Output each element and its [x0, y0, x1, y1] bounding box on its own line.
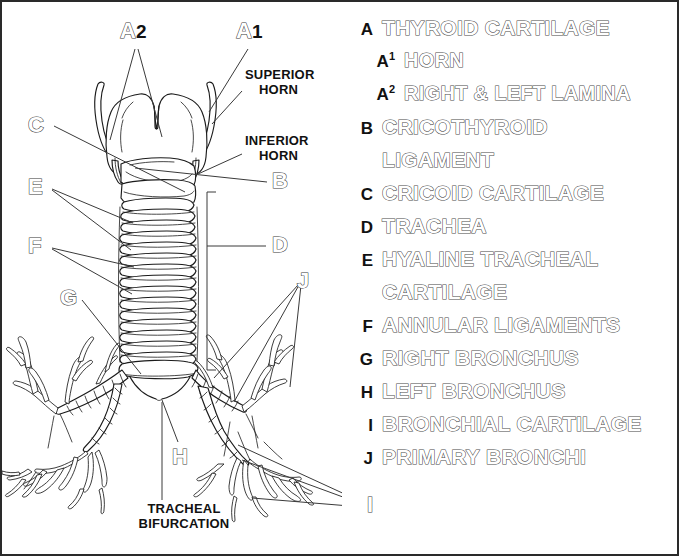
legend-text-F: ANNULAR LIGAMENTS: [373, 313, 620, 337]
legend-row-J: J PRIMARY BRONCHI: [343, 445, 677, 478]
legend-text-B-cont: LIGAMENT: [373, 148, 494, 172]
legend-row-A2: A2 RIGHT & LEFT LAMINA: [343, 82, 677, 115]
legend-text-D: TRACHEA: [373, 214, 487, 238]
legend-key-I: I: [343, 416, 373, 436]
figure-label-G: G: [60, 287, 77, 309]
legend-row-I: I BRONCHIAL CARTILAGE: [343, 412, 677, 445]
legend-row-C: C CRICOID CARTILAGE: [343, 181, 677, 214]
figure-label-J: J: [297, 270, 309, 292]
legend-text-A: THYROID CARTILAGE: [373, 16, 610, 40]
legend-text-J: PRIMARY BRONCHI: [373, 445, 586, 469]
legend-row-B: B CRICOTHYROID: [343, 115, 677, 148]
legend-row-E-cont: CARTILAGE: [343, 280, 677, 313]
legend-key-A: A: [343, 20, 373, 40]
legend-key-B: B: [343, 119, 373, 139]
legend-row-A1: A1 HORN: [343, 49, 677, 82]
figure-label-A2: A2: [120, 20, 146, 42]
legend-row-F: F ANNULAR LIGAMENTS: [343, 313, 677, 346]
legend-text-E: HYALINE TRACHEAL: [373, 247, 598, 271]
figure-label-E: E: [28, 176, 43, 198]
inferior-horn-line2: HORN: [245, 149, 309, 164]
legend-key-C: C: [343, 185, 373, 205]
legend-key-A1: A1: [343, 50, 395, 72]
right-primary-bronchus: [55, 370, 128, 452]
legend-text-E-cont: CARTILAGE: [373, 280, 507, 304]
figure-label-H: H: [172, 446, 188, 468]
annotation-superior-horn: SUPERIOR HORN: [245, 68, 315, 97]
legend-key-G: G: [343, 350, 373, 370]
legend-row-E: E HYALINE TRACHEAL: [343, 247, 677, 280]
legend-text-B: CRICOTHYROID: [373, 115, 548, 139]
diagram-inner: .ln{fill:none;stroke:#1b1b1b;stroke-widt…: [2, 2, 677, 554]
diagram-page: .ln{fill:none;stroke:#1b1b1b;stroke-widt…: [0, 0, 679, 556]
annotation-inferior-horn: INFERIOR HORN: [245, 134, 309, 163]
legend-key-J: J: [343, 449, 373, 469]
superior-horn-line2: HORN: [245, 83, 315, 98]
left-primary-bronchus: [192, 370, 249, 466]
legend-text-A2: RIGHT & LEFT LAMINA: [395, 82, 631, 105]
legend-key-D: D: [343, 218, 373, 238]
legend-row-A: A THYROID CARTILAGE: [343, 16, 677, 49]
annotation-tracheal-bifurcation: TRACHEAL BIFURCATION: [124, 502, 244, 531]
figure-label-F: F: [28, 235, 41, 257]
bronchial-tree-right-field: [194, 335, 314, 522]
figure-label-B: B: [272, 170, 288, 192]
legend-key-E: E: [343, 251, 373, 271]
tracheal-cartilage-rings: [119, 198, 199, 367]
legend-key-H: H: [343, 383, 373, 403]
legend-text-A1: HORN: [395, 49, 464, 72]
figure-label-C: C: [28, 114, 44, 136]
legend-row-G: G RIGHT BRONCHUS: [343, 346, 677, 379]
legend-row-B-cont: LIGAMENT: [343, 148, 677, 181]
figure-label-A1: A1: [236, 20, 262, 42]
inferior-horn-line1: INFERIOR: [245, 134, 309, 149]
tracheal-bifurcation-line1: TRACHEAL: [124, 502, 244, 517]
legend-row-H: H LEFT BRONCHUS: [343, 379, 677, 412]
figure-label-I: I: [367, 494, 373, 516]
anatomy-figure: .ln{fill:none;stroke:#1b1b1b;stroke-widt…: [2, 2, 342, 554]
legend-text-I: BRONCHIAL CARTILAGE: [373, 412, 642, 436]
legend-text-C: CRICOID CARTILAGE: [373, 181, 604, 205]
legend-row-D: D TRACHEA: [343, 214, 677, 247]
legend-list: A THYROID CARTILAGE A1 HORN A2 RIGHT & L…: [343, 16, 677, 456]
superior-horn-line1: SUPERIOR: [245, 68, 315, 83]
legend-text-H: LEFT BRONCHUS: [373, 379, 566, 403]
legend-key-F: F: [343, 317, 373, 337]
figure-label-D: D: [272, 234, 288, 256]
tracheal-bifurcation-line2: BIFURCATION: [124, 517, 244, 532]
tracheal-bifurcation: [119, 360, 198, 400]
legend-text-G: RIGHT BRONCHUS: [373, 346, 579, 370]
legend-key-A2: A2: [343, 83, 395, 105]
